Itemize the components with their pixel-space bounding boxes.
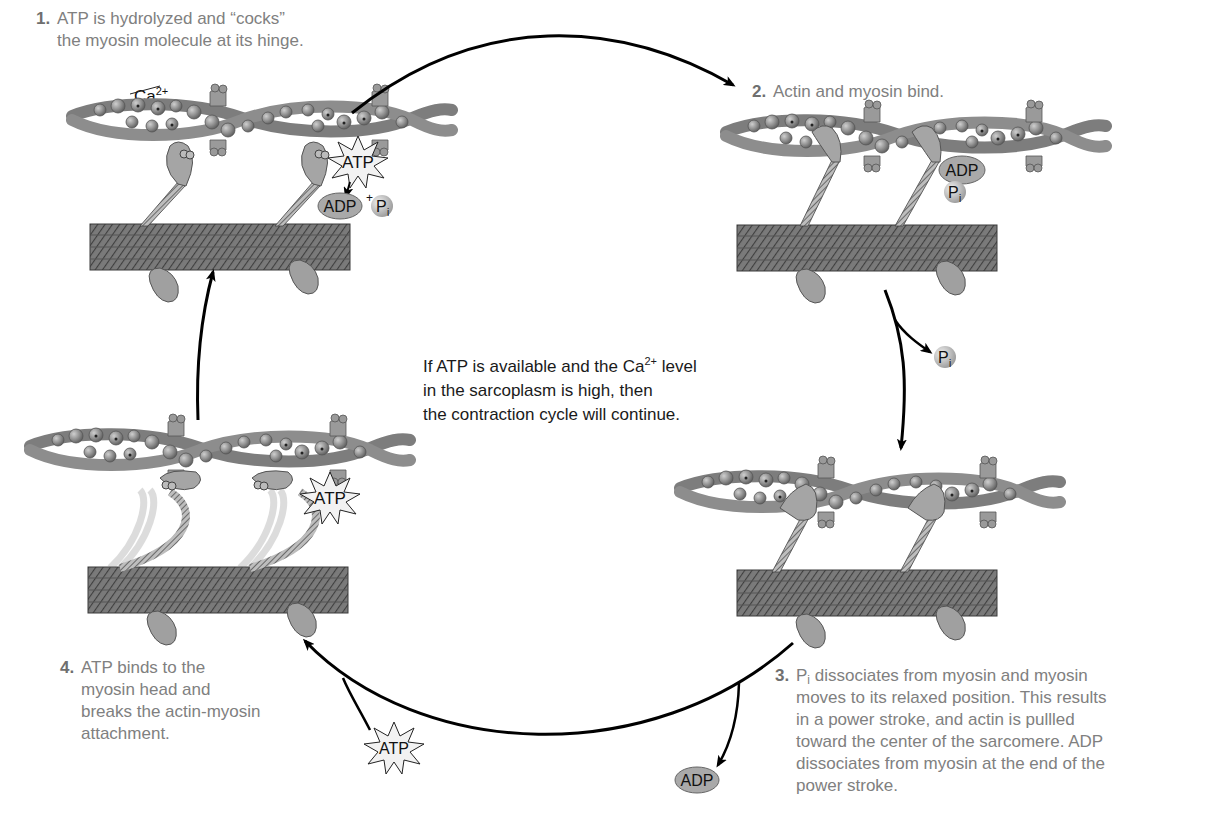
atp-incoming-label: ATP [379, 740, 409, 757]
panel-3 [680, 456, 1060, 528]
arrow-adp-release [718, 683, 739, 765]
arrow-atp-binding [343, 678, 370, 730]
atp-label-1: ATP [342, 153, 374, 172]
svg-text:P: P [938, 349, 949, 366]
svg-text:ADP: ADP [324, 198, 357, 215]
cycle-diagram: ATP ADP + P i ADP P i ATP P i ADP [0, 0, 1207, 826]
arrow-2-to-3 [885, 290, 904, 448]
svg-text:i: i [387, 207, 389, 218]
panel-3-thick [737, 570, 997, 648]
svg-text:ADP: ADP [681, 772, 714, 789]
panel-1-thick [90, 224, 350, 302]
arrow-4-to-1 [198, 272, 213, 420]
svg-text:P: P [376, 198, 387, 215]
svg-text:ADP: ADP [946, 162, 979, 179]
arrow-3-to-4 [305, 641, 793, 734]
panel-2-thick [737, 225, 997, 303]
arrow-1-to-2 [352, 36, 733, 113]
svg-text:i: i [949, 358, 951, 369]
svg-text:i: i [959, 193, 961, 204]
atp-label-4: ATP [314, 489, 346, 508]
panel-4 [30, 414, 410, 486]
panel-4-thick [88, 567, 348, 645]
svg-text:P: P [948, 184, 959, 201]
panel-1 [72, 84, 452, 156]
